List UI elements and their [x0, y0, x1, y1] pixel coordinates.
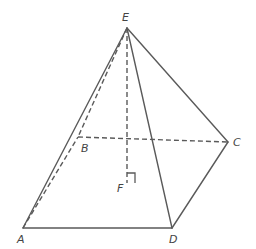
vertex-label-F: F [117, 182, 124, 195]
edge-EB [78, 28, 127, 137]
edge-AB [23, 137, 78, 228]
right-angle-marker [127, 173, 135, 183]
edge-EA [23, 28, 127, 228]
vertex-label-D: D [169, 233, 177, 246]
edge-EC [127, 28, 228, 142]
vertex-label-C: C [233, 136, 241, 149]
vertex-label-A: A [16, 233, 25, 246]
vertex-label-E: E [122, 11, 129, 24]
edge-DC [172, 142, 228, 228]
vertex-label-B: B [81, 142, 89, 155]
pyramid-diagram: E B C F A D [0, 0, 256, 249]
edge-ED [127, 28, 172, 228]
